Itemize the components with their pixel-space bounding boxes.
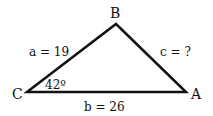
side-c-label: c = ? xyxy=(160,45,191,59)
vertex-b-label: B xyxy=(110,5,120,21)
triangle-diagram: B C A a = 19 c = ? b = 26 42º xyxy=(0,0,213,116)
vertex-c-label: C xyxy=(12,86,23,102)
angle-c-label: 42º xyxy=(45,78,66,92)
side-b-label: b = 26 xyxy=(84,100,125,114)
vertex-a-label: A xyxy=(190,86,202,102)
side-a-label: a = 19 xyxy=(29,45,69,59)
